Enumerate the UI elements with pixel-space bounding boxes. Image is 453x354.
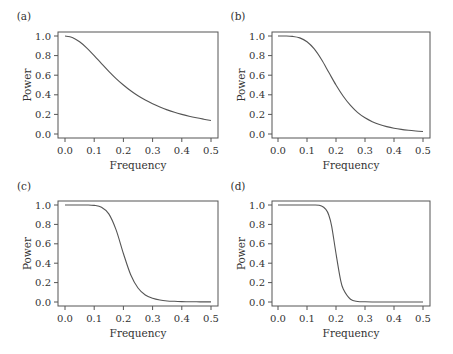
y-tick-label: 0.4 [249,89,265,100]
x-tick-label: 0.4 [386,145,402,156]
plot-frame [272,32,430,138]
plot-frame [272,201,430,306]
x-axis-label: Frequency [323,327,380,339]
y-axis-label: Power [235,236,247,270]
y-axis-label: Power [235,67,247,101]
panel-label: (a) [17,10,31,22]
y-tick-label: 1.0 [35,31,51,42]
y-axis-label: Power [21,236,33,270]
y-tick-label: 0.8 [35,50,51,61]
x-tick-label: 0.5 [203,145,219,156]
y-tick-label: 0.4 [35,258,51,269]
y-tick-label: 0.4 [249,258,265,269]
power-curve [278,205,423,302]
x-axis-label: Frequency [110,327,167,339]
x-tick-label: 0.1 [86,145,102,156]
y-tick-label: 0.0 [249,297,265,308]
panel-label: (d) [231,180,246,192]
y-tick-label: 1.0 [249,31,265,42]
x-tick-label: 0.3 [145,313,161,324]
x-tick-label: 0.5 [203,313,219,324]
x-tick-label: 0.5 [415,145,431,156]
x-tick-label: 0.1 [86,313,102,324]
y-tick-label: 0.6 [249,238,265,249]
x-tick-label: 0.3 [357,145,373,156]
x-tick-label: 0.2 [328,145,344,156]
y-tick-label: 1.0 [35,200,51,211]
y-tick-label: 0.6 [35,70,51,81]
figure-panels: (a)0.00.10.20.30.40.50.00.20.40.60.81.0F… [0,0,453,354]
power-curve [65,36,211,120]
y-tick-label: 0.2 [35,109,51,120]
y-tick-label: 0.2 [249,277,265,288]
y-tick-label: 0.4 [35,89,51,100]
x-tick-label: 0.3 [357,313,373,324]
chart-panel-d: (d)0.00.10.20.30.40.50.00.20.40.60.81.0F… [231,180,431,339]
y-tick-label: 0.8 [249,50,265,61]
x-tick-label: 0.4 [174,313,190,324]
y-tick-label: 0.2 [249,109,265,120]
x-axis-label: Frequency [323,159,380,171]
y-tick-label: 0.8 [35,219,51,230]
panel-label: (b) [231,10,246,22]
y-axis-label: Power [21,67,33,101]
y-tick-label: 0.8 [249,219,265,230]
y-tick-label: 1.0 [249,200,265,211]
x-tick-label: 0.4 [174,145,190,156]
x-tick-label: 0.2 [115,145,131,156]
chart-panel-a: (a)0.00.10.20.30.40.50.00.20.40.60.81.0F… [17,10,219,171]
y-tick-label: 0.0 [35,129,51,140]
panel-label: (c) [17,180,31,192]
x-tick-label: 0.0 [57,313,73,324]
x-tick-label: 0.2 [115,313,131,324]
power-curve [278,36,423,132]
x-tick-label: 0.0 [270,145,286,156]
y-tick-label: 0.2 [35,277,51,288]
x-tick-label: 0.4 [386,313,402,324]
y-tick-label: 0.6 [249,70,265,81]
power-curve [65,205,211,302]
chart-panel-b: (b)0.00.10.20.30.40.50.00.20.40.60.81.0F… [231,10,431,171]
y-tick-label: 0.0 [249,129,265,140]
x-axis-label: Frequency [110,159,167,171]
plot-frame [58,201,218,306]
chart-panel-c: (c)0.00.10.20.30.40.50.00.20.40.60.81.0F… [17,180,219,339]
x-tick-label: 0.3 [145,145,161,156]
x-tick-label: 0.1 [299,313,315,324]
x-tick-label: 0.0 [57,145,73,156]
y-tick-label: 0.6 [35,238,51,249]
y-tick-label: 0.0 [35,297,51,308]
x-tick-label: 0.2 [328,313,344,324]
x-tick-label: 0.5 [415,313,431,324]
x-tick-label: 0.1 [299,145,315,156]
x-tick-label: 0.0 [270,313,286,324]
plot-frame [58,32,218,138]
